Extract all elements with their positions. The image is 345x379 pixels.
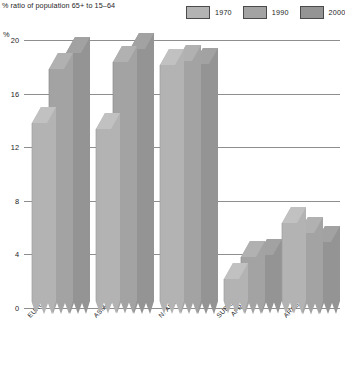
bar <box>32 107 56 318</box>
bar <box>96 113 120 318</box>
bar <box>282 207 306 318</box>
bar <box>160 49 184 318</box>
bar <box>224 263 248 318</box>
